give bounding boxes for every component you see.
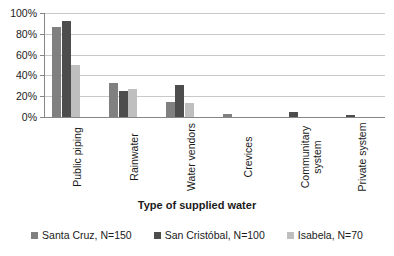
bar	[52, 27, 61, 117]
x-axis-category-label-wrapper: Communitary system	[300, 120, 323, 194]
bar	[62, 21, 71, 117]
x-axis-line	[44, 117, 385, 118]
y-axis-tick-label: 80%	[0, 29, 37, 40]
bar	[346, 115, 355, 117]
bar-chart: 0%20%40%60%80%100% Public pipingRainwate…	[0, 0, 394, 256]
bar-group	[52, 13, 81, 117]
legend-swatch-icon	[31, 232, 38, 239]
legend-item: Isabela, N=70	[287, 229, 363, 241]
bar-group	[223, 13, 252, 117]
x-axis-category-labels: Public pipingRainwaterWater vendorsCrevi…	[44, 120, 385, 194]
legend-label: San Cristóbal, N=100	[165, 229, 265, 241]
x-axis-category-label: Rainwater	[129, 120, 141, 194]
y-axis-tick-label: 20%	[0, 91, 37, 102]
bar	[128, 89, 137, 117]
x-axis-category-label: Water vendors	[186, 120, 198, 194]
bar	[166, 102, 175, 117]
x-axis-category-label-wrapper: Crevices	[243, 120, 255, 194]
legend-label: Santa Cruz, N=150	[42, 229, 132, 241]
legend-swatch-icon	[154, 232, 161, 239]
bar-group	[336, 13, 365, 117]
x-axis-category-label-wrapper: Private system	[357, 120, 369, 194]
x-axis-category-label: Private system	[357, 120, 369, 194]
bar-group	[166, 13, 195, 117]
bar	[71, 65, 80, 117]
y-axis-tick-label: 60%	[0, 50, 37, 61]
chart-legend: Santa Cruz, N=150San Cristóbal, N=100Isa…	[0, 229, 394, 241]
y-axis-tick-label: 40%	[0, 70, 37, 81]
bar	[119, 91, 128, 117]
legend-item: San Cristóbal, N=100	[154, 229, 265, 241]
x-axis-category-label-wrapper: Water vendors	[186, 120, 198, 194]
legend-label: Isabela, N=70	[298, 229, 363, 241]
bar	[175, 85, 184, 117]
bar	[223, 114, 232, 117]
x-axis-title: Type of supplied water	[0, 199, 394, 211]
bar-group	[280, 13, 309, 117]
x-axis-category-label: Public piping	[72, 120, 84, 194]
x-axis-category-label-wrapper: Rainwater	[129, 120, 141, 194]
bar	[109, 83, 118, 117]
y-axis-tick-label: 100%	[0, 8, 37, 19]
bar	[289, 112, 298, 117]
x-axis-category-label: Crevices	[243, 120, 255, 194]
bar	[185, 103, 194, 117]
x-axis-category-label: Communitary system	[300, 120, 323, 194]
plot-area	[44, 13, 385, 117]
legend-item: Santa Cruz, N=150	[31, 229, 132, 241]
x-axis-category-label-wrapper: Public piping	[72, 120, 84, 194]
y-axis-tick-label: 0%	[0, 112, 37, 123]
legend-swatch-icon	[287, 232, 294, 239]
bar-group	[109, 13, 138, 117]
